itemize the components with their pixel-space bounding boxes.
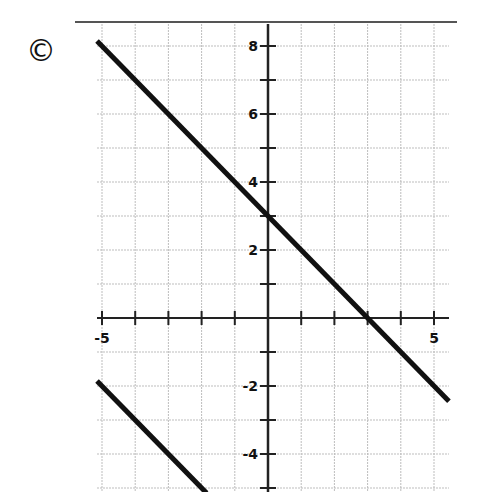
plotted-line-2 [97,381,207,492]
y-tick-label: -2 [242,378,258,394]
x-tick-label: -5 [94,330,110,346]
y-tick-label: 2 [248,242,258,258]
plotted-lines [97,41,449,492]
y-tick-label: 4 [248,174,258,190]
coordinate-plane: -558642-2-4 [0,0,479,492]
y-tick-label: 8 [248,38,258,54]
y-tick-label: -4 [242,446,258,462]
graph-figure: © -558642-2-4 [0,0,479,492]
x-tick-label: 5 [429,330,439,346]
choice-label: © [26,36,56,66]
y-tick-label: 6 [248,106,258,122]
plotted-line-1 [97,41,449,401]
